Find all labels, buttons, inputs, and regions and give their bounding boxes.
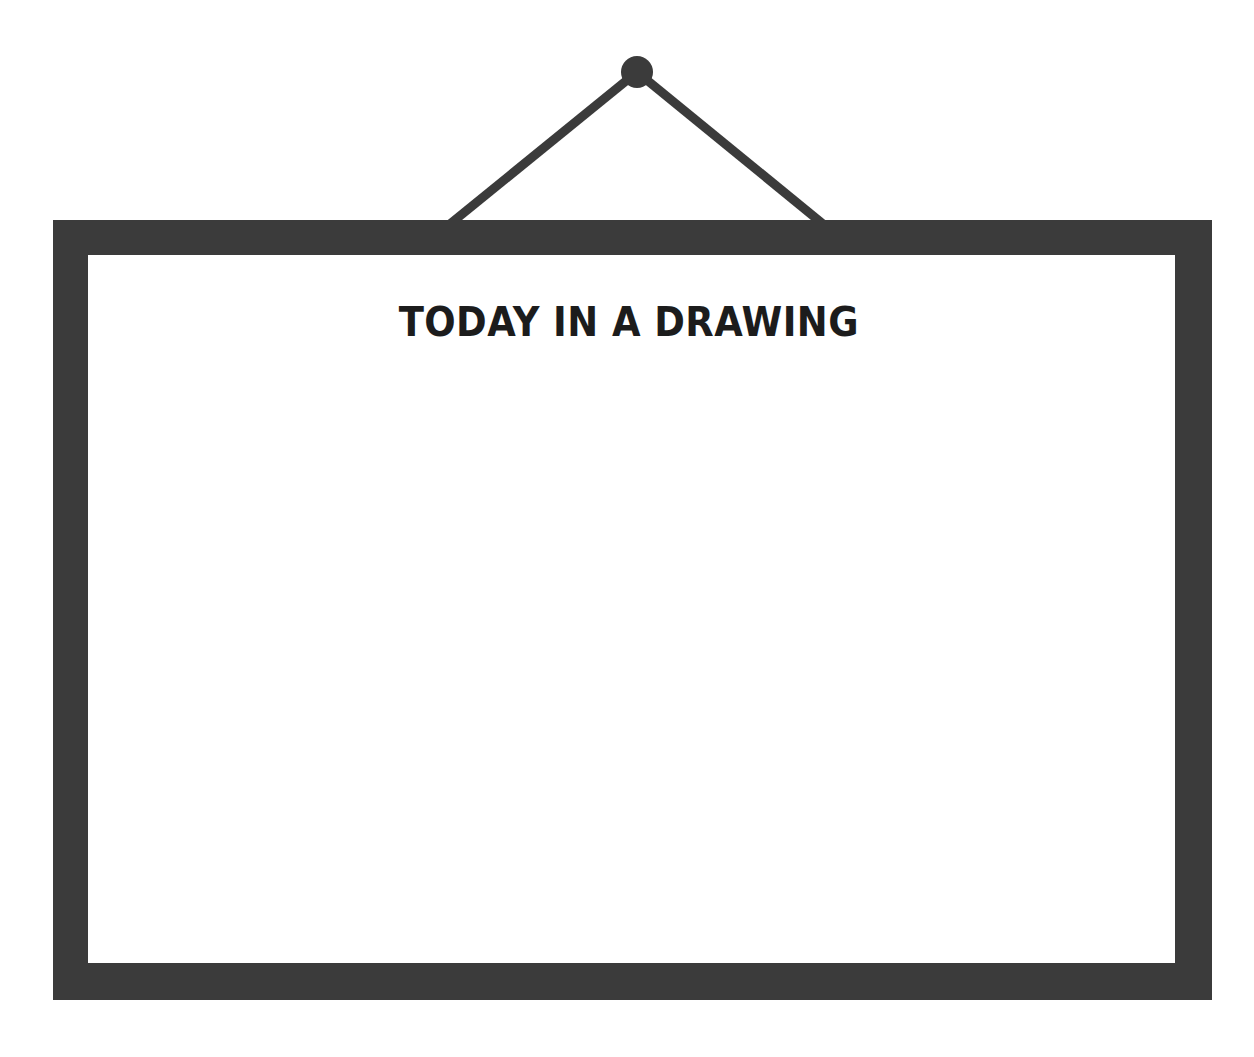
whiteboard-surface[interactable]: TODAY IN A DRAWING: [88, 255, 1175, 963]
right-hanging-cord: [637, 72, 823, 224]
hanging-whiteboard-scene: TODAY IN A DRAWING: [0, 0, 1254, 1057]
nail-icon: [621, 56, 653, 88]
left-hanging-cord: [450, 72, 637, 224]
whiteboard-frame: TODAY IN A DRAWING: [53, 220, 1212, 1000]
board-title: TODAY IN A DRAWING: [142, 302, 1120, 343]
drawing-area[interactable]: [88, 365, 1175, 963]
